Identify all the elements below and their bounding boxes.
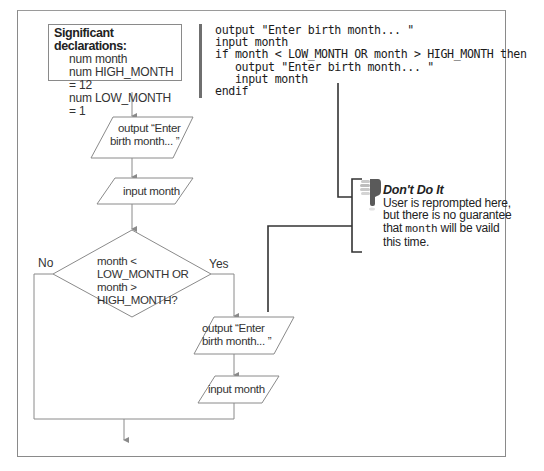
- input-2-text: input month: [208, 383, 265, 396]
- no-label: No: [38, 256, 53, 270]
- decision-text: month < LOW_MONTH OR month > HIGH_MONTH?: [97, 255, 189, 307]
- declarations-title: Significant declarations:: [54, 27, 181, 53]
- output-2-text: output “Enter birth month... ”: [202, 322, 271, 348]
- output-2-line: output “Enter: [202, 322, 271, 335]
- output-1-text: output “Enter birth month... ”: [100, 122, 181, 148]
- callout-text: User is reprompted here, but there is no…: [383, 197, 513, 249]
- code-divider-bar: [199, 24, 202, 98]
- dont-do-it-callout: Don't Do It User is reprompted here, but…: [383, 184, 513, 249]
- output-2-line: birth month... ”: [202, 335, 271, 348]
- code-line: if month < LOW_MONTH OR month > HIGH_MON…: [215, 48, 527, 60]
- output-1-line: output “Enter: [100, 122, 181, 135]
- decision-line: month <: [97, 255, 189, 268]
- callout-code-word: month: [405, 222, 437, 235]
- declaration-line: num HIGH_MONTH = 12: [54, 66, 181, 92]
- code-line: output "Enter birth month... ": [215, 61, 527, 73]
- code-line: input month: [215, 73, 527, 85]
- declaration-line: num LOW_MONTH = 1: [54, 92, 181, 118]
- yes-branch-line: [211, 274, 234, 316]
- decision-line: LOW_MONTH OR: [97, 268, 189, 281]
- decision-line: month >: [97, 281, 189, 294]
- flowchart-connector-line: [268, 226, 352, 312]
- output-1-line: birth month... ”: [100, 135, 181, 148]
- declarations-box: Significant declarations: num month num …: [48, 24, 182, 81]
- input-1-text: input month: [123, 185, 180, 198]
- decision-line: HIGH_MONTH?: [97, 294, 189, 307]
- pseudocode-block: output "Enter birth month... "input mont…: [215, 24, 527, 97]
- code-line: endif: [215, 85, 527, 97]
- thumbs-down-icon: [360, 177, 382, 211]
- yes-label: Yes: [209, 257, 229, 271]
- merge-line: [118, 403, 234, 419]
- code-connector-line: [338, 83, 352, 197]
